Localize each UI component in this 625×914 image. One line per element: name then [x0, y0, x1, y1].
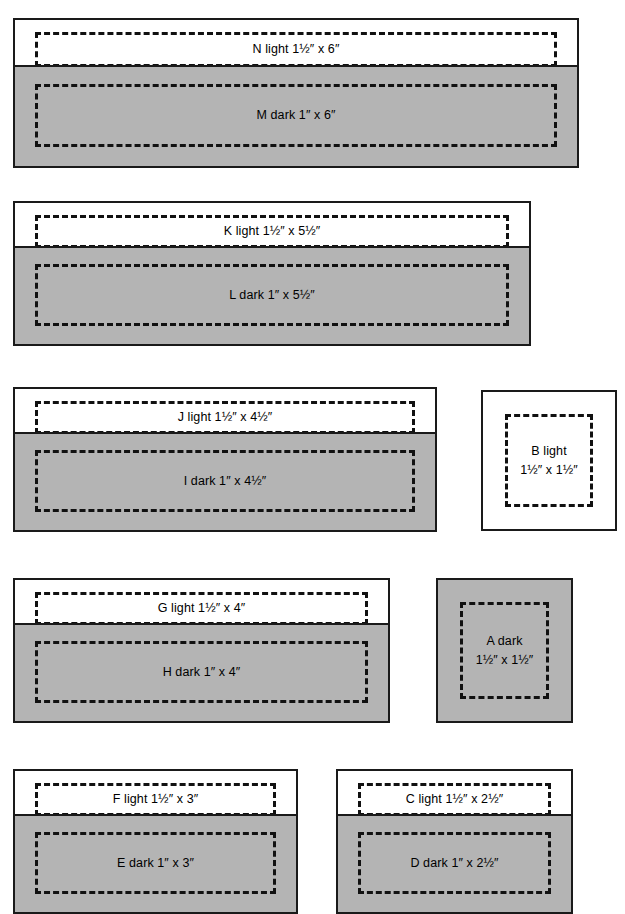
piece-group-f-e: F light 1½″ x 3″ E dark 1″ x 3″: [13, 769, 298, 914]
piece-band-d: D dark 1″ x 2½″: [338, 814, 571, 912]
piece-outline-a: A dark 1½″ x 1½″: [460, 602, 549, 699]
piece-outline-c: C light 1½″ x 2½″: [358, 783, 551, 814]
piece-group-a: A dark 1½″ x 1½″: [436, 578, 573, 723]
piece-label-a: A dark 1½″ x 1½″: [476, 632, 534, 668]
piece-outline-e: E dark 1″ x 3″: [35, 832, 276, 894]
piece-outline-h: H dark 1″ x 4″: [35, 641, 368, 703]
piece-outline-l: L dark 1″ x 5½″: [35, 264, 509, 326]
piece-band-j: J light 1½″ x 4½″: [15, 389, 435, 432]
cutting-diagram: N light 1½″ x 6″ M dark 1″ x 6″ K light …: [0, 0, 625, 914]
piece-label-l: L dark 1″ x 5½″: [229, 286, 315, 304]
piece-band-h: H dark 1″ x 4″: [15, 623, 388, 721]
piece-group-j-i: J light 1½″ x 4½″ I dark 1″ x 4½″: [13, 387, 437, 532]
piece-outline-n: N light 1½″ x 6″: [35, 32, 557, 65]
piece-label-e: E dark 1″ x 3″: [117, 854, 194, 872]
piece-band-c: C light 1½″ x 2½″: [338, 771, 571, 814]
piece-band-e: E dark 1″ x 3″: [15, 814, 296, 912]
piece-outline-i: I dark 1″ x 4½″: [35, 450, 415, 512]
piece-outline-b: B light 1½″ x 1½″: [505, 414, 593, 507]
piece-label-i: I dark 1″ x 4½″: [184, 472, 267, 490]
piece-label-m: M dark 1″ x 6″: [256, 106, 335, 124]
piece-label-k: K light 1½″ x 5½″: [224, 222, 321, 240]
piece-outline-j: J light 1½″ x 4½″: [35, 401, 415, 432]
piece-group-n-m: N light 1½″ x 6″ M dark 1″ x 6″: [13, 18, 579, 168]
piece-band-m: M dark 1″ x 6″: [15, 65, 577, 166]
piece-label-g: G light 1½″ x 4″: [158, 599, 246, 617]
piece-label-d: D dark 1″ x 2½″: [410, 854, 498, 872]
piece-label-f: F light 1½″ x 3″: [113, 790, 199, 808]
piece-label-b: B light 1½″ x 1½″: [520, 442, 578, 478]
piece-outline-f: F light 1½″ x 3″: [35, 783, 276, 814]
piece-band-b: B light 1½″ x 1½″: [483, 392, 615, 529]
piece-group-k-l: K light 1½″ x 5½″ L dark 1″ x 5½″: [13, 201, 531, 346]
piece-band-a: A dark 1½″ x 1½″: [438, 580, 571, 721]
piece-group-c-d: C light 1½″ x 2½″ D dark 1″ x 2½″: [336, 769, 573, 914]
piece-group-b: B light 1½″ x 1½″: [481, 390, 617, 531]
piece-outline-k: K light 1½″ x 5½″: [35, 215, 509, 246]
piece-outline-m: M dark 1″ x 6″: [35, 84, 557, 147]
piece-label-n: N light 1½″ x 6″: [253, 40, 340, 58]
piece-band-n: N light 1½″ x 6″: [15, 20, 577, 65]
piece-group-g-h: G light 1½″ x 4″ H dark 1″ x 4″: [13, 578, 390, 723]
piece-band-k: K light 1½″ x 5½″: [15, 203, 529, 246]
piece-outline-g: G light 1½″ x 4″: [35, 592, 368, 623]
piece-band-f: F light 1½″ x 3″: [15, 771, 296, 814]
piece-band-i: I dark 1″ x 4½″: [15, 432, 435, 530]
piece-band-g: G light 1½″ x 4″: [15, 580, 388, 623]
piece-label-h: H dark 1″ x 4″: [163, 663, 241, 681]
piece-outline-d: D dark 1″ x 2½″: [358, 832, 551, 894]
piece-label-j: J light 1½″ x 4½″: [178, 408, 273, 426]
piece-band-l: L dark 1″ x 5½″: [15, 246, 529, 344]
piece-label-c: C light 1½″ x 2½″: [406, 790, 503, 808]
